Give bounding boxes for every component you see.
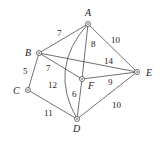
edge-B-C [28,53,39,90]
edge-A-B [39,24,88,53]
node-label-C: C [13,85,20,96]
edge-B-E [39,53,137,72]
edge-A-F [82,24,88,79]
node-label-D: D [72,123,81,134]
node-label-A: A [84,7,92,18]
weight-B-F: 7 [46,63,51,73]
weight-F-D: 6 [72,89,77,99]
weight-D-E: 10 [112,100,122,110]
weight-F-E: 9 [108,77,113,87]
node-label-F: F [87,80,95,91]
edge-F-D [77,79,82,119]
weight-C-D: 11 [44,108,53,118]
weight-A-B: 7 [57,28,62,38]
weight-B-C: 5 [23,66,28,76]
weight-B-E: 14 [104,56,114,66]
node-label-E: E [145,67,152,78]
edge-A-D [65,24,88,119]
edge-D-E [77,72,137,119]
node-label-B: B [25,47,31,58]
weight-A-F: 8 [91,39,96,49]
weight-A-E: 10 [111,35,121,45]
weight-A-D: 12 [48,80,57,90]
weighted-graph-diagram: 7108121475116910 ABCDEF [0,0,163,141]
